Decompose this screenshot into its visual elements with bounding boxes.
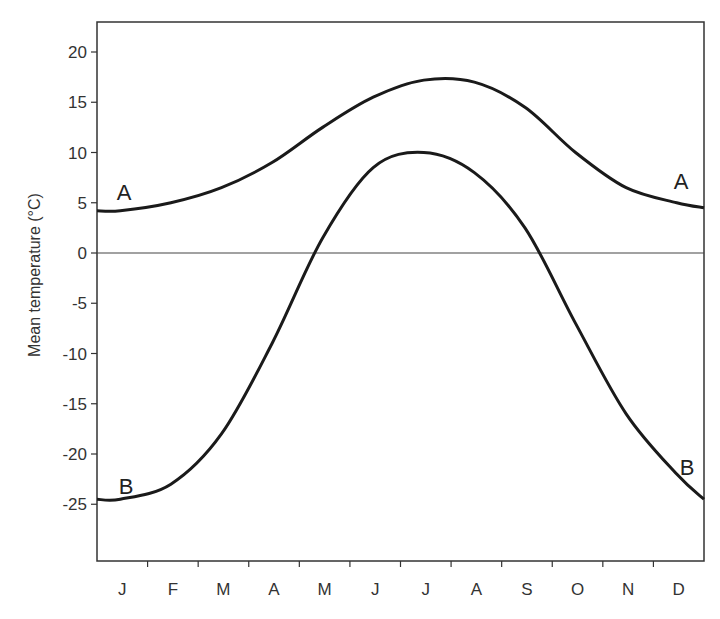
y-tick-label: -20 [62, 445, 87, 464]
y-tick-label: -15 [62, 395, 87, 414]
series-b-line [97, 152, 704, 500]
y-tick-label: 20 [68, 43, 87, 62]
y-tick-label: 5 [78, 194, 87, 213]
x-tick-label: M [216, 580, 230, 599]
x-tick-label: D [673, 580, 685, 599]
series-b-label-left: B [119, 474, 134, 499]
x-tick-label: S [521, 580, 532, 599]
series-a-label-right: A [674, 169, 689, 194]
series-a-line [97, 78, 704, 211]
x-tick-label: J [422, 580, 431, 599]
y-axis-title: Mean temperature (°C) [26, 193, 44, 357]
y-tick-label: -25 [62, 495, 87, 514]
y-tick-label: 10 [68, 144, 87, 163]
y-tick-label: -10 [62, 345, 87, 364]
y-tick-label: -5 [72, 294, 87, 313]
x-tick-label: A [471, 580, 483, 599]
x-tick-label: O [571, 580, 584, 599]
x-tick-label: M [318, 580, 332, 599]
x-tick-label: J [371, 580, 380, 599]
x-tick-label: J [118, 580, 127, 599]
x-tick-label: A [268, 580, 280, 599]
y-axis: 20151050-5-10-15-20-25 [62, 43, 97, 514]
x-axis: JFMAMJJASOND [118, 561, 685, 599]
x-tick-label: N [622, 580, 634, 599]
plot-frame [97, 22, 704, 561]
x-tick-label: F [168, 580, 178, 599]
series-b-label-right: B [680, 455, 695, 480]
y-tick-label: 0 [78, 244, 87, 263]
series-a-label-left: A [117, 180, 132, 205]
temperature-chart: 20151050-5-10-15-20-25 JFMAMJJASOND A A … [0, 0, 720, 619]
y-tick-label: 15 [68, 93, 87, 112]
